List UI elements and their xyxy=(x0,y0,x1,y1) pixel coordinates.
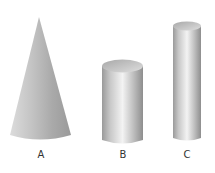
shapes-figure xyxy=(0,0,215,173)
cylinder-c xyxy=(173,22,201,141)
cylinder-b xyxy=(102,60,143,144)
label-c: C xyxy=(184,149,191,161)
cone-a xyxy=(10,17,71,140)
label-b: B xyxy=(120,149,127,161)
label-a: A xyxy=(38,149,45,161)
